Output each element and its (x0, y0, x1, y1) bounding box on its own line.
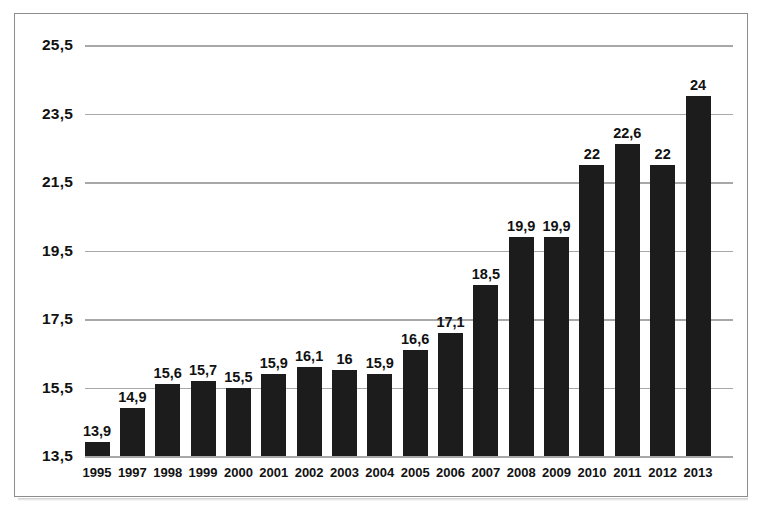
y-axis-tick-label: 23,5 (42, 105, 73, 123)
bar: 18,5 (473, 285, 498, 456)
bar-value-label: 16,1 (295, 348, 323, 364)
bar-slot: 162003 (332, 45, 357, 456)
bar-slot: 15,71999 (191, 45, 216, 456)
chart-frame-border: 13,515,517,519,521,523,525,5 13,9199514,… (14, 13, 748, 497)
bar: 13,9 (85, 442, 110, 456)
x-axis-tick-label: 1995 (83, 465, 112, 480)
bar-slot: 15,52000 (226, 45, 251, 456)
bar: 16 (332, 370, 357, 456)
x-axis-tick-label: 2003 (330, 465, 359, 480)
bar: 19,9 (544, 237, 569, 456)
bar-value-label: 16 (336, 351, 352, 367)
bar-value-label: 16,6 (401, 331, 429, 347)
bar-slot: 222010 (579, 45, 604, 456)
bar-slot: 14,91997 (120, 45, 145, 456)
bar: 17,1 (438, 333, 463, 456)
bar: 14,9 (120, 408, 145, 456)
x-axis-tick-label: 2008 (507, 465, 536, 480)
bar: 15,9 (367, 374, 392, 456)
x-axis-tick-label: 2001 (259, 465, 288, 480)
y-axis-tick-label: 21,5 (42, 173, 73, 191)
bar-slot: 18,52007 (473, 45, 498, 456)
bar-slot: 22,62011 (615, 45, 640, 456)
bar-value-label: 22,6 (613, 125, 641, 141)
y-axis-tick-label: 25,5 (42, 36, 73, 54)
gridline (85, 456, 733, 458)
x-axis-tick-label: 2007 (471, 465, 500, 480)
bar-slot: 16,62005 (403, 45, 428, 456)
bar-slot: 16,12002 (297, 45, 322, 456)
bar: 19,9 (509, 237, 534, 456)
bar: 15,9 (261, 374, 286, 456)
bar: 15,5 (226, 388, 251, 457)
bar-value-label: 14,9 (118, 389, 146, 405)
bar-value-label: 15,7 (189, 362, 217, 378)
bar-slot: 17,12006 (438, 45, 463, 456)
bar-chart-figure: 13,515,517,519,521,523,525,5 13,9199514,… (0, 0, 760, 521)
bar-value-label: 19,9 (507, 218, 535, 234)
x-axis-tick-label: 2010 (577, 465, 606, 480)
bar-value-label: 17,1 (436, 314, 464, 330)
bar: 22 (579, 165, 604, 456)
bar-value-label: 22 (655, 146, 671, 162)
x-axis-tick-label: 2006 (436, 465, 465, 480)
x-axis-tick-label: 2013 (684, 465, 713, 480)
x-axis-tick-label: 2000 (224, 465, 253, 480)
bar-slot: 15,92001 (261, 45, 286, 456)
bar: 22,6 (615, 144, 640, 456)
bar-value-label: 18,5 (472, 266, 500, 282)
x-axis-tick-label: 2002 (295, 465, 324, 480)
bar-value-label: 15,6 (154, 365, 182, 381)
y-axis-tick-label: 13,5 (42, 447, 73, 465)
bar-value-label: 22 (584, 146, 600, 162)
bar-value-label: 15,5 (224, 369, 252, 385)
bar-value-label: 13,9 (83, 423, 111, 439)
bar: 16,1 (297, 367, 322, 456)
x-axis-tick-label: 2012 (648, 465, 677, 480)
x-axis-tick-label: 1997 (118, 465, 147, 480)
y-axis-tick-label: 15,5 (42, 379, 73, 397)
bar-slot: 242013 (686, 45, 711, 456)
bar-value-label: 19,9 (542, 218, 570, 234)
bar-value-label: 15,9 (260, 355, 288, 371)
y-axis-tick-label: 19,5 (42, 242, 73, 260)
bar-slot: 19,92008 (509, 45, 534, 456)
bar: 15,7 (191, 381, 216, 456)
bar-value-label: 24 (690, 77, 706, 93)
x-axis-tick-label: 1999 (189, 465, 218, 480)
bar: 16,6 (403, 350, 428, 456)
plot-area: 13,515,517,519,521,523,525,5 13,9199514,… (85, 45, 733, 456)
bar-slot: 15,92004 (367, 45, 392, 456)
x-axis-tick-label: 2005 (401, 465, 430, 480)
bar-slot: 15,61998 (155, 45, 180, 456)
bar: 22 (650, 165, 675, 456)
x-axis-tick-label: 2009 (542, 465, 571, 480)
bar-slot: 222012 (650, 45, 675, 456)
scan-shadow (18, 498, 748, 501)
bar-slot: 19,92009 (544, 45, 569, 456)
x-axis-tick-label: 2004 (365, 465, 394, 480)
bar-value-label: 15,9 (366, 355, 394, 371)
x-axis-tick-label: 2011 (613, 465, 641, 480)
bar-slot: 13,91995 (85, 45, 110, 456)
y-axis-tick-label: 17,5 (42, 310, 73, 328)
bar: 15,6 (155, 384, 180, 456)
x-axis-tick-label: 1998 (153, 465, 182, 480)
bar: 24 (686, 96, 711, 456)
